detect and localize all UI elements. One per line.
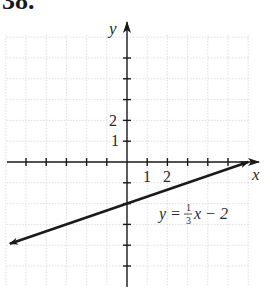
- x-tick-label-1: 1: [143, 168, 151, 185]
- y-tick-label-2: 2: [109, 112, 117, 129]
- y-axis-label: y: [107, 19, 117, 38]
- equation-denominator: 3: [186, 215, 191, 226]
- plotted-line: [10, 162, 248, 244]
- svg-text:y =: y =: [157, 205, 181, 223]
- equation-numerator: 1: [186, 202, 191, 213]
- coordinate-plane: y x 2 1 1 2 y = 1 3 x − 2: [0, 0, 279, 291]
- equation-rhs: x − 2: [193, 205, 228, 222]
- x-axis-label: x: [251, 165, 260, 184]
- y-tick-label-1: 1: [111, 132, 119, 149]
- equation-lhs: y =: [157, 205, 181, 223]
- x-tick-label-2: 2: [163, 168, 171, 185]
